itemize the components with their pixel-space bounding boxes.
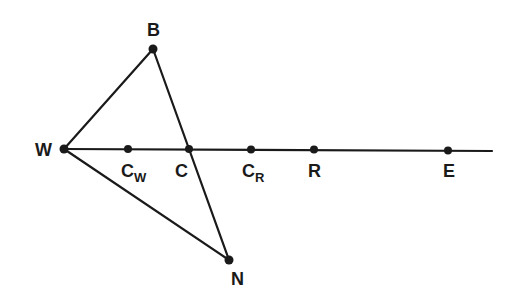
segment-B-N — [153, 49, 229, 260]
label-N: N — [231, 269, 244, 289]
segment-W-B — [64, 49, 153, 149]
point-E — [444, 147, 452, 155]
point-CR — [247, 146, 255, 154]
point-C — [185, 145, 193, 153]
label-W: W — [35, 140, 52, 160]
label-Cw: CW — [121, 161, 147, 185]
point-W — [60, 145, 69, 154]
label-R: R — [308, 161, 321, 181]
segment-W-N — [64, 149, 229, 260]
label-CR: CR — [242, 161, 265, 185]
label-C: C — [175, 161, 188, 181]
point-Cw — [124, 145, 132, 153]
point-B — [149, 45, 158, 54]
label-B: B — [147, 20, 160, 40]
point-R — [310, 146, 318, 154]
label-E: E — [443, 161, 455, 181]
geometry-diagram: W B N CW C CR R E — [0, 0, 515, 305]
point-N — [225, 256, 234, 265]
